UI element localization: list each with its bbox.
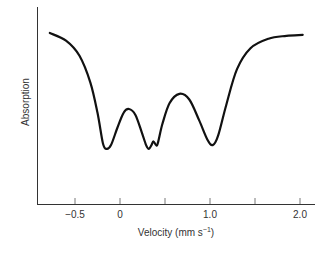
x-tick-label: 0	[117, 209, 123, 220]
x-axis-label-sup: −1	[203, 226, 211, 233]
x-axis-label-main: Velocity (mm s	[138, 227, 203, 238]
x-tick-label: 2.0	[293, 209, 307, 220]
x-tick-label: 1.0	[203, 209, 217, 220]
spectrum-curve	[50, 33, 303, 149]
x-axis-label-close: )	[211, 227, 214, 238]
chart: −0.501.02.0 Absorption Velocity (mm s−1)	[0, 0, 335, 256]
x-axis-label: Velocity (mm s−1)	[138, 226, 214, 238]
x-tick-label: −0.5	[65, 209, 85, 220]
y-axis-label: Absorption	[20, 78, 31, 126]
x-axis-ticks: −0.501.02.0	[65, 198, 307, 220]
